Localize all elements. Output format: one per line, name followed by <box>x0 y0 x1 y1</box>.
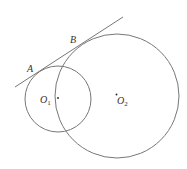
label-o1-main: O <box>40 94 47 105</box>
label-o2-sub: 2 <box>124 100 128 108</box>
label-o2-main: O <box>117 95 124 106</box>
label-b: B <box>70 34 76 45</box>
common-tangent-line <box>15 17 123 87</box>
label-o1: O1 <box>40 94 51 107</box>
geometry-diagram: A B O1 O2 <box>0 0 187 169</box>
label-o2: O2 <box>117 95 128 108</box>
label-o1-sub: 1 <box>47 99 51 107</box>
label-a: A <box>26 63 34 74</box>
center-dot-o1 <box>57 97 59 99</box>
